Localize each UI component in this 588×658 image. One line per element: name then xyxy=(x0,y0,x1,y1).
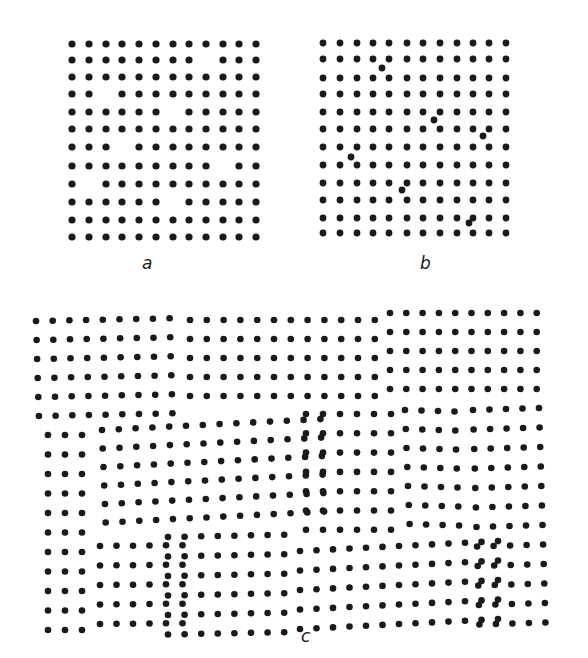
lattice-dot xyxy=(187,317,194,324)
lattice-dot xyxy=(495,577,502,584)
lattice-dot xyxy=(67,336,74,343)
lattice-dot xyxy=(525,600,532,607)
lattice-dot xyxy=(101,354,108,361)
lattice-dot xyxy=(372,317,379,324)
lattice-dot xyxy=(372,336,379,343)
lattice-dot xyxy=(541,580,548,587)
lattice-dot xyxy=(445,540,452,547)
lattice-dot xyxy=(62,549,69,556)
lattice-dot xyxy=(116,426,123,433)
lattice-dot xyxy=(102,501,109,508)
lattice-dot xyxy=(79,588,86,595)
lattice-dot xyxy=(330,624,337,631)
lattice-dot xyxy=(542,600,549,607)
lattice-dot xyxy=(68,374,75,381)
lattice-dot xyxy=(488,465,495,472)
lattice-dot xyxy=(179,581,186,588)
lattice-dot xyxy=(45,490,52,497)
lattice-dot xyxy=(167,353,174,360)
lattice-dot xyxy=(237,393,244,400)
lattice-dot xyxy=(437,465,444,472)
lattice-dot xyxy=(355,317,362,324)
lattice-dot xyxy=(45,432,52,439)
lattice-dot xyxy=(297,567,304,574)
lattice-dot xyxy=(354,527,361,534)
lattice-dot xyxy=(320,507,327,514)
lattice-dot xyxy=(533,310,540,317)
lattice-dot xyxy=(419,310,426,317)
lattice-dot xyxy=(506,503,513,510)
lattice-dot xyxy=(198,553,205,560)
lattice-dot xyxy=(248,610,255,617)
lattice-dot xyxy=(185,478,192,485)
lattice-dot xyxy=(33,337,40,344)
lattice-dot xyxy=(451,408,458,415)
lattice-dot xyxy=(412,542,419,549)
lattice-dot xyxy=(495,538,502,545)
lattice-dot xyxy=(149,424,156,431)
lattice-dot xyxy=(462,540,469,547)
lattice-dot xyxy=(62,471,69,478)
lattice-dot xyxy=(102,411,109,418)
lattice-dot xyxy=(462,618,469,625)
lattice-dot xyxy=(79,627,86,634)
lattice-dot xyxy=(254,374,261,381)
lattice-dot xyxy=(165,612,172,619)
lattice-dot xyxy=(313,586,320,593)
lattice-dot xyxy=(537,444,544,451)
lattice-dot xyxy=(136,518,143,525)
lattice-dot xyxy=(337,411,344,418)
lattice-dot xyxy=(421,464,428,471)
lattice-dot xyxy=(248,591,255,598)
lattice-dot xyxy=(288,317,295,324)
lattice-dot xyxy=(396,582,403,589)
lattice-dot xyxy=(281,551,288,558)
lattice-dot xyxy=(97,562,104,569)
lattice-dot xyxy=(119,500,126,507)
lattice-dot xyxy=(215,591,222,598)
lattice-dot xyxy=(179,620,186,627)
lattice-dot xyxy=(337,507,344,514)
lattice-dot xyxy=(524,561,531,568)
lattice-dot xyxy=(300,417,307,424)
lattice-dot xyxy=(371,411,378,418)
lattice-dot xyxy=(330,546,337,553)
lattice-dot xyxy=(113,582,120,589)
lattice-dot xyxy=(337,449,344,456)
lattice-dot xyxy=(388,430,395,437)
lattice-dot xyxy=(363,564,370,571)
lattice-dot xyxy=(45,471,52,478)
lattice-dot xyxy=(429,600,436,607)
lattice-dot xyxy=(215,572,222,579)
lattice-dot xyxy=(337,469,344,476)
lattice-dot xyxy=(330,585,337,592)
lattice-dot xyxy=(85,393,92,400)
lattice-dot xyxy=(62,432,69,439)
lattice-dot xyxy=(526,620,533,627)
lattice-dot xyxy=(130,581,137,588)
lattice-dot xyxy=(304,336,311,343)
lattice-dot xyxy=(135,392,142,399)
lattice-dot xyxy=(100,335,107,342)
lattice-dot xyxy=(346,604,353,611)
lattice-dot xyxy=(113,543,120,550)
lattice-dot xyxy=(321,355,328,362)
lattice-dot xyxy=(436,367,443,374)
lattice-dot xyxy=(251,456,258,463)
lattice-dot xyxy=(402,407,409,414)
lattice-dot xyxy=(45,451,52,458)
lattice-dot xyxy=(133,444,140,451)
lattice-dot xyxy=(231,630,238,637)
lattice-dot xyxy=(179,542,186,549)
lattice-dot xyxy=(355,355,362,362)
lattice-dot xyxy=(354,469,361,476)
lattice-dot xyxy=(379,544,386,551)
lattice-dot xyxy=(533,329,540,336)
lattice-dot xyxy=(452,386,459,393)
lattice-dot xyxy=(536,424,543,431)
lattice-dot xyxy=(130,542,137,549)
lattice-dot xyxy=(412,561,419,568)
lattice-dot xyxy=(202,477,209,484)
lattice-dot xyxy=(215,611,222,618)
lattice-dot xyxy=(267,437,274,444)
